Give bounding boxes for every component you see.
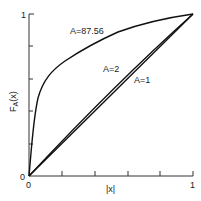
cdf-chart: A=87.56 A=2 A=1 1 0 0 1 |x| FA(x) — [0, 0, 201, 201]
x-axis-label: |x| — [106, 184, 115, 194]
x-tick-label-0: 0 — [26, 180, 31, 190]
annotation-a-87-56: A=87.56 — [70, 26, 104, 36]
annotation-a-2: A=2 — [103, 64, 119, 74]
x-tick-label-1: 1 — [190, 180, 195, 190]
series — [29, 14, 193, 176]
y-tick-label-0: 0 — [20, 172, 25, 182]
curve-a-1 — [29, 14, 193, 176]
y-axis-label: FA(x) — [8, 91, 19, 112]
svg-text:FA(x): FA(x) — [8, 91, 19, 112]
y-tick-label-1: 1 — [21, 10, 26, 20]
annotation-a-1: A=1 — [134, 75, 150, 85]
